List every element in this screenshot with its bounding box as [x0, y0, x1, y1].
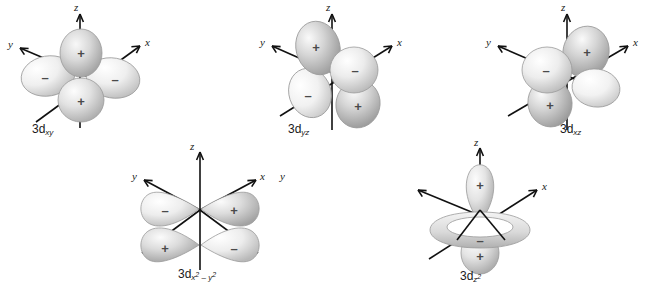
lobe-sign: +	[161, 241, 169, 256]
orbital-label-3dxy: 3dxy	[32, 122, 54, 137]
axis-label-y: y	[131, 170, 137, 182]
orbital-panel-3dxy: + – – + z y x 3dxy	[0, 0, 220, 145]
orbital-svg-3dyz: + – – + z y x 3dyz	[240, 0, 450, 145]
lobe-sign: +	[583, 45, 591, 60]
axis-label-y: y	[485, 36, 491, 48]
lobe-sign: +	[77, 94, 85, 109]
axis-label-z: z	[325, 1, 331, 13]
lobe-sign: –	[111, 72, 118, 87]
lobe-sign: –	[41, 70, 48, 85]
axis-label-z: z	[189, 140, 195, 152]
axis-label-y: y	[7, 38, 13, 50]
orbital-label-3dyz: 3dyz	[288, 122, 309, 137]
lobe-sign: –	[542, 63, 549, 78]
lobe-sign: +	[230, 203, 238, 218]
orbital-panel-3dz2: + – + z x 3dz2	[385, 140, 605, 285]
orbital-svg-3dz2: + – + z x 3dz2	[385, 140, 605, 285]
orbital-panel-3dxz: + – + z y x 3dxz	[460, 0, 658, 145]
d-orbital-diagram-figure: + – – + z y x 3dxy	[0, 0, 658, 285]
axis-label-x: x	[541, 180, 547, 192]
axis-label-z: z	[560, 1, 566, 13]
orbital-panel-3dx2-y2: – + + – z y x y 3dx2 – y2	[120, 140, 340, 285]
lobe-sign-torus: –	[476, 233, 483, 248]
orbital-svg-3dxy: + – – + z y x 3dxy	[0, 0, 220, 145]
lobe-sign: –	[161, 203, 168, 218]
axis-label-x: x	[144, 36, 150, 48]
axis-label-x: x	[396, 36, 402, 48]
orbital-svg-3dxz: + – + z y x 3dxz	[460, 0, 658, 145]
lobes-3dxz	[522, 21, 622, 131]
lobes-3dyz	[282, 16, 385, 132]
orbital-panel-3dyz: + – – + z y x 3dyz	[240, 0, 450, 145]
lobe-sign: –	[351, 63, 358, 78]
lobe-sign: –	[230, 241, 237, 256]
lobe-sign: +	[77, 46, 85, 61]
orbital-label-3dxz: 3dxz	[560, 122, 581, 137]
orbital-svg-3dx2-y2: – + + – z y x y 3dx2 – y2	[120, 140, 340, 285]
lobe-sign: +	[476, 178, 484, 193]
orbital-label-3dx2-y2: 3dx2 – y2	[178, 267, 216, 282]
axis-label-y-secondary: y	[279, 170, 285, 182]
axis-label-y: y	[259, 36, 265, 48]
axis-label-z: z	[73, 1, 79, 13]
axis-label-z: z	[473, 136, 479, 148]
axis-label-x: x	[259, 170, 265, 182]
lobe-sign: –	[304, 88, 311, 103]
lobe-sign: +	[354, 99, 362, 114]
lobe-sign: +	[476, 249, 484, 264]
lobe-sign: +	[546, 98, 554, 113]
axis-label-x: x	[632, 36, 638, 48]
lobe-sign: +	[312, 40, 320, 55]
